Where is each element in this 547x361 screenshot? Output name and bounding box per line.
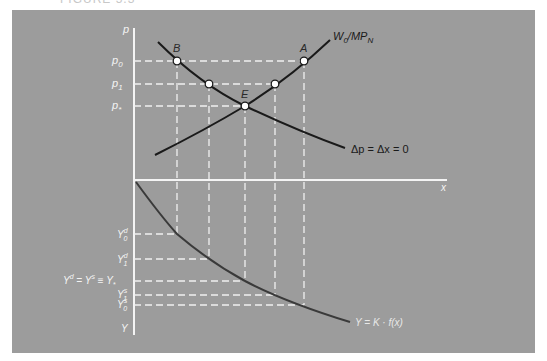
Y1d-label: Yd1 [117, 252, 129, 267]
point-p1-demand [205, 80, 213, 88]
pstar-label: p* [111, 99, 122, 114]
p0-label: p0 [111, 54, 123, 69]
output-guides [134, 234, 304, 305]
x-axis-label: x [440, 182, 447, 193]
point-E-label: E [241, 88, 249, 100]
production-curve-label: Y = K · f(x) [355, 317, 403, 328]
demand-curve-label: Δp = Δx = 0 [351, 143, 409, 155]
p-axis-label: p [122, 23, 129, 35]
Ystar-equality-label: Yd = Ys ≡ Y* [63, 273, 116, 288]
p1-label: p1 [111, 77, 123, 92]
demand-curve [158, 42, 345, 148]
supply-curve-label: W0/MPN [333, 30, 373, 45]
point-B [173, 57, 181, 65]
point-A-label: A [299, 42, 307, 54]
diagram-svg: p p0 p1 p* B A E W0/MPN Δp = Δx = 0 x Yd… [0, 0, 547, 361]
point-p1-supply [271, 80, 279, 88]
Y-axis-label: Y [121, 323, 129, 334]
Y0s-label: Ys0 [117, 297, 128, 312]
point-E [241, 102, 249, 110]
point-B-label: B [173, 42, 180, 54]
production-curve [136, 182, 350, 322]
point-A [300, 57, 308, 65]
Y0d-label: Yd0 [117, 227, 129, 242]
